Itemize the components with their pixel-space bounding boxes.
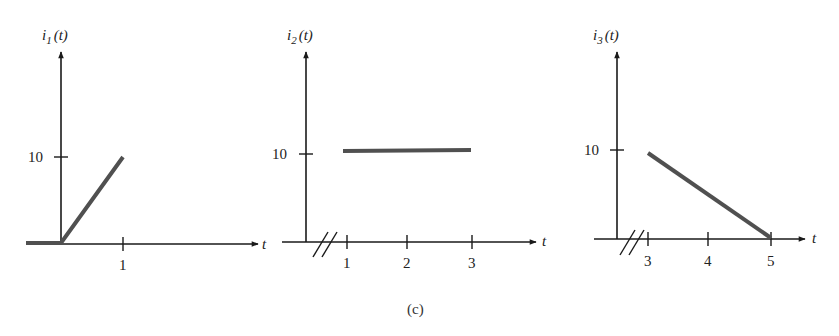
x-tick-label: 1 (119, 257, 127, 273)
x-axis-label: t (262, 236, 267, 252)
figure-canvas: i1(t) 10 1 t i2(t) 10 1 2 3 t i3 (0, 0, 839, 336)
signal-i1 (26, 157, 123, 243)
x-axis-label: t (542, 233, 547, 249)
x-tick-label: 3 (468, 255, 476, 271)
x-tick-label: 4 (704, 253, 712, 269)
x-axis-label: t (812, 230, 817, 246)
y-tick-label: 10 (28, 149, 43, 165)
figure-caption: (c) (407, 301, 424, 318)
x-tick-label: 3 (644, 253, 652, 269)
y-tick-label: 10 (272, 146, 287, 162)
y-axis-label-i3: i3(t) (593, 27, 619, 46)
axis-break-icon (620, 230, 644, 255)
x-tick-label: 1 (343, 255, 351, 271)
x-tick-label: 5 (767, 253, 775, 269)
signal-i2 (343, 150, 471, 151)
y-axis-label-i1: i1(t) (42, 27, 68, 46)
y-axis-label-i2: i2(t) (287, 27, 313, 46)
y-tick-label: 10 (584, 142, 599, 158)
plot-i2: i2(t) 10 1 2 3 t (272, 27, 547, 271)
axis-break-icon (313, 232, 337, 257)
plot-i3: i3(t) 10 3 4 5 t (584, 27, 817, 269)
plot-i1: i1(t) 10 1 t (26, 27, 267, 273)
signal-i3 (648, 153, 771, 238)
x-tick-label: 2 (403, 255, 411, 271)
